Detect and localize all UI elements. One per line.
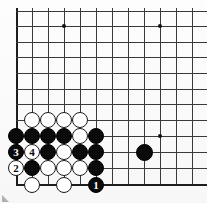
stone-white[interactable] <box>56 160 72 176</box>
stone-black[interactable] <box>24 160 40 176</box>
stone-white[interactable] <box>40 160 56 176</box>
stone-white-move-4[interactable]: 4 <box>24 144 40 160</box>
stone-black[interactable] <box>8 128 24 144</box>
grid-line-v-7 <box>112 8 113 186</box>
grid-line-v-12 <box>192 8 193 186</box>
star-point-upper-left <box>62 24 66 28</box>
scan-corner-artifact <box>2 195 9 202</box>
grid-line-h-5 <box>16 73 207 74</box>
stone-label: 2 <box>13 162 19 173</box>
stone-white[interactable] <box>56 144 72 160</box>
stone-label: 4 <box>29 146 35 157</box>
grid-line-h-1 <box>16 11 207 12</box>
stone-black-move-1[interactable]: 1 <box>88 177 104 193</box>
stone-white[interactable] <box>56 177 72 193</box>
stone-white[interactable] <box>56 112 72 128</box>
grid-line-v-11 <box>176 8 177 186</box>
stone-label: 3 <box>13 146 19 157</box>
stone-black[interactable] <box>24 128 40 144</box>
stone-white-move-2[interactable]: 2 <box>8 160 24 176</box>
stone-black[interactable] <box>56 128 72 144</box>
stone-black[interactable] <box>72 144 88 160</box>
stone-white[interactable] <box>72 160 88 176</box>
stone-black[interactable] <box>40 144 56 160</box>
stone-black[interactable] <box>88 160 104 176</box>
grid-line-h-6 <box>16 89 207 90</box>
stone-black-move-3[interactable]: 3 <box>8 144 24 160</box>
stone-white[interactable] <box>24 177 40 193</box>
stone-white[interactable] <box>72 112 88 128</box>
star-point-lower-right <box>158 134 162 138</box>
grid-line-v-8 <box>128 8 129 186</box>
grid-line-h-2 <box>16 26 207 27</box>
stone-black-right-side[interactable] <box>136 144 153 161</box>
stone-label: 1 <box>93 179 99 190</box>
stone-black[interactable] <box>88 128 104 144</box>
stone-white[interactable] <box>24 112 40 128</box>
star-point-upper-right <box>158 24 162 28</box>
stone-black[interactable] <box>88 144 104 160</box>
grid-line-h-7 <box>16 104 207 105</box>
go-board-diagram: 3 4 2 1 <box>0 0 207 203</box>
board-bottom-edge <box>16 184 207 186</box>
stone-black[interactable] <box>40 128 56 144</box>
stone-white[interactable] <box>40 112 56 128</box>
grid-line-h-4 <box>16 57 207 58</box>
grid-line-v-10 <box>160 8 161 186</box>
grid-line-h-3 <box>16 42 207 43</box>
stone-white[interactable] <box>72 128 88 144</box>
